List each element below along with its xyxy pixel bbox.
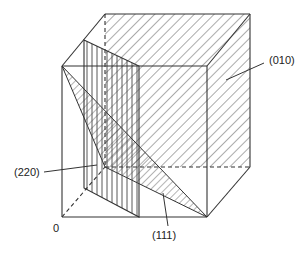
label-111: (111) — [152, 230, 176, 241]
label-010: (010) — [269, 55, 295, 66]
label-origin: 0 — [53, 223, 59, 234]
plane-220 — [84, 40, 139, 217]
crystal-cube-diagram — [0, 0, 308, 256]
label-220: (220) — [14, 167, 40, 178]
